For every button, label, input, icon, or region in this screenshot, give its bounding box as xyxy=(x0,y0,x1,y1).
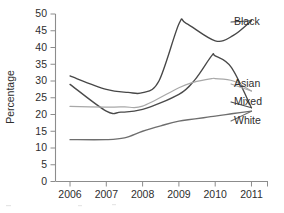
y-tick-label: 20 xyxy=(35,108,47,120)
x-tick-label: 2009 xyxy=(167,188,191,200)
series-label-black: Black xyxy=(234,15,260,27)
series-label-asian: Asian xyxy=(234,77,260,89)
x-tick-label: 2010 xyxy=(204,188,228,200)
y-tick-label: 30 xyxy=(35,74,47,86)
y-tick-label: 35 xyxy=(35,58,47,70)
series-label-white: White xyxy=(234,114,261,126)
y-axis-title: Percentage xyxy=(4,70,16,124)
chart-canvas: 05101520253035404550 Percentage 20062007… xyxy=(0,0,284,213)
y-tick-label: 40 xyxy=(35,41,47,53)
line-chart: 05101520253035404550 Percentage 20062007… xyxy=(0,0,284,213)
y-tick-label: 0 xyxy=(41,175,47,187)
x-tick-label: 2007 xyxy=(95,188,119,200)
y-tick-label: 45 xyxy=(35,24,47,36)
y-tick-label: 10 xyxy=(35,141,47,153)
y-tick-label: 50 xyxy=(35,7,47,19)
y-tick-label: 15 xyxy=(35,125,47,137)
x-tick-label: 2008 xyxy=(131,188,155,200)
x-tick-label: 2011 xyxy=(240,188,263,200)
y-tick-label: 5 xyxy=(41,158,47,170)
series-label-mixed: Mixed xyxy=(234,95,262,107)
y-tick-label: 25 xyxy=(35,91,47,103)
x-tick-label: 2006 xyxy=(58,188,82,200)
